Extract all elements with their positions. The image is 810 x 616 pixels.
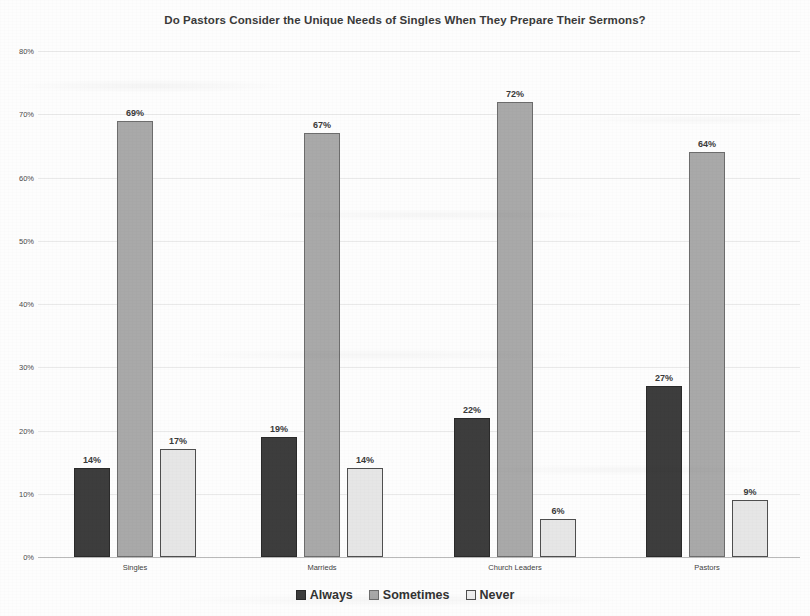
y-axis-tick-80pct: 80% bbox=[4, 47, 34, 56]
bar-chart-figure: Do Pastors Consider the Unique Needs of … bbox=[0, 0, 810, 616]
bar-value-label: 64% bbox=[681, 139, 733, 149]
bar-rect[interactable] bbox=[646, 386, 682, 557]
legend-label: Never bbox=[480, 588, 515, 602]
bar-value-label: 69% bbox=[109, 108, 161, 118]
legend-item-sometimes[interactable]: Sometimes bbox=[369, 588, 450, 602]
bar-rect[interactable] bbox=[261, 437, 297, 557]
bar-rect[interactable] bbox=[160, 449, 196, 557]
legend-item-never[interactable]: Never bbox=[466, 588, 515, 602]
y-axis-tick-10pct: 10% bbox=[4, 489, 34, 498]
bar-rect[interactable] bbox=[497, 102, 533, 557]
bar-value-label: 6% bbox=[532, 506, 584, 516]
bar-group-marrieds: 19%67%14% bbox=[261, 51, 383, 557]
y-axis-tick-50pct: 50% bbox=[4, 236, 34, 245]
gridline-0pct bbox=[38, 557, 800, 558]
legend-swatch-icon bbox=[466, 590, 476, 600]
legend-label: Sometimes bbox=[383, 588, 450, 602]
bar-rect[interactable] bbox=[540, 519, 576, 557]
legend-label: Always bbox=[310, 588, 353, 602]
bar-value-label: 17% bbox=[152, 436, 204, 446]
bar-rect[interactable] bbox=[732, 500, 768, 557]
legend-swatch-icon bbox=[369, 590, 379, 600]
bar-value-label: 22% bbox=[446, 405, 498, 415]
bar-rect[interactable] bbox=[304, 133, 340, 557]
bar-rect[interactable] bbox=[74, 468, 110, 557]
bar-value-label: 14% bbox=[66, 455, 118, 465]
bar-group-pastors: 27%64%9% bbox=[646, 51, 768, 557]
bar-value-label: 14% bbox=[339, 455, 391, 465]
plot-area: 14%69%17%19%67%14%22%72%6%27%64%9% bbox=[38, 51, 800, 557]
x-axis-label-marrieds: Marrieds bbox=[241, 563, 403, 572]
bar-value-label: 67% bbox=[296, 120, 348, 130]
y-axis-tick-70pct: 70% bbox=[4, 110, 34, 119]
legend-swatch-icon bbox=[296, 590, 306, 600]
bar-value-label: 27% bbox=[638, 373, 690, 383]
bar-group-church-leaders: 22%72%6% bbox=[454, 51, 576, 557]
bar-rect[interactable] bbox=[347, 468, 383, 557]
x-axis-label-church-leaders: Church Leaders bbox=[434, 563, 596, 572]
bar-value-label: 72% bbox=[489, 89, 541, 99]
legend-item-always[interactable]: Always bbox=[296, 588, 353, 602]
y-axis-tick-30pct: 30% bbox=[4, 363, 34, 372]
y-axis-tick-20pct: 20% bbox=[4, 426, 34, 435]
bar-rect[interactable] bbox=[689, 152, 725, 557]
bar-group-singles: 14%69%17% bbox=[74, 51, 196, 557]
x-axis-label-pastors: Pastors bbox=[626, 563, 788, 572]
y-axis-tick-40pct: 40% bbox=[4, 300, 34, 309]
y-axis-tick-60pct: 60% bbox=[4, 173, 34, 182]
chart-legend: AlwaysSometimesNever bbox=[0, 588, 810, 602]
x-axis-label-singles: Singles bbox=[54, 563, 216, 572]
bar-value-label: 19% bbox=[253, 424, 305, 434]
bar-rect[interactable] bbox=[117, 121, 153, 557]
chart-title: Do Pastors Consider the Unique Needs of … bbox=[0, 14, 810, 26]
bar-rect[interactable] bbox=[454, 418, 490, 557]
y-axis-tick-0pct: 0% bbox=[4, 553, 34, 562]
bar-value-label: 9% bbox=[724, 487, 776, 497]
